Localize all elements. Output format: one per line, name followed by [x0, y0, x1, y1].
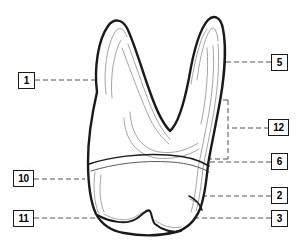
tooth-diagram-svg	[0, 0, 298, 249]
label-box-2[interactable]: 2	[271, 187, 288, 204]
label-box-10[interactable]: 10	[13, 170, 34, 187]
label-box-12[interactable]: 12	[268, 119, 289, 136]
label-text-12: 12	[273, 123, 284, 133]
label-text-2: 2	[277, 191, 282, 201]
label-box-6[interactable]: 6	[271, 153, 288, 170]
label-box-3[interactable]: 3	[271, 210, 288, 227]
tooth-illustration	[88, 17, 225, 235]
tooth-diagram-figure: 1 5 12 6 10 2 11 3	[0, 0, 298, 249]
label-text-1: 1	[24, 76, 29, 86]
label-text-3: 3	[277, 214, 282, 224]
label-text-6: 6	[277, 157, 282, 167]
label-text-10: 10	[18, 174, 29, 184]
label-text-11: 11	[18, 214, 28, 224]
label-text-5: 5	[277, 58, 282, 68]
label-box-1[interactable]: 1	[18, 72, 35, 89]
label-box-11[interactable]: 11	[13, 210, 34, 227]
label-box-5[interactable]: 5	[271, 54, 288, 71]
